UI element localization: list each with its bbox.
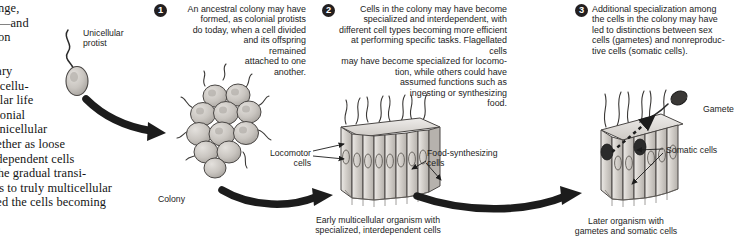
step-number-1: 1: [154, 4, 167, 17]
multicellularity-evolution-figure: nge, —and on nary nicellu- lular life ol…: [0, 0, 742, 250]
step-text-3: Additional specialization among the cell…: [592, 4, 742, 56]
leader-locomotor: [313, 144, 344, 159]
step-callout-1: 1 An ancestral colony may have formed, a…: [154, 4, 306, 77]
arrow-early-to-later-organism: [417, 186, 582, 209]
label-food-synthesizing-cells: Food-synthesizing cells: [427, 148, 498, 169]
label-gamete: Gamete: [703, 104, 734, 114]
label-somatic-cells: Somatic cells: [666, 145, 717, 155]
caption-later-organism: Later organism with gametes and somatic …: [556, 216, 696, 237]
body-text-fragment-bottom: nary nicellu- lular life olonial unicell…: [0, 64, 112, 210]
label-colony: Colony: [158, 194, 185, 204]
early-multicellular-organism-illustration: [341, 94, 440, 207]
step-callout-3: 3 Additional specialization among the ce…: [575, 4, 742, 56]
arrow-colony-to-early-organism: [222, 188, 333, 206]
body-text-fragment-top: nge, —and on: [0, 1, 29, 45]
step-number-2: 2: [322, 4, 335, 17]
step-text-1: An ancestral colony may have formed, as …: [171, 4, 306, 77]
step-callout-2: 2 Cells in the colony may have become sp…: [322, 4, 507, 109]
step-number-3: 3: [575, 4, 588, 17]
label-locomotor-cells: Locomotor cells: [255, 148, 311, 169]
label-unicellular-protist: Unicellular protist: [83, 28, 124, 49]
step-text-2: Cells in the colony may have become spec…: [339, 4, 507, 109]
caption-early-organism: Early multicellular organism with specia…: [298, 215, 458, 236]
